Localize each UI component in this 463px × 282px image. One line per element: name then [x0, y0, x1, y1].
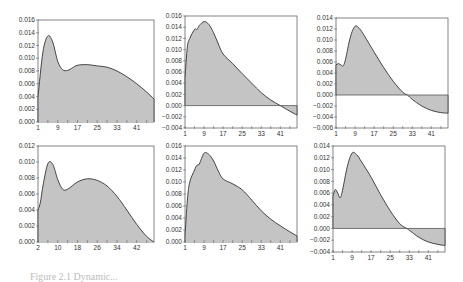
x-tick-label: 25 — [94, 124, 102, 131]
y-tick-label: −0.004 — [162, 124, 182, 131]
y-tick-label: 0.004 — [19, 206, 36, 213]
y-tick-label: 0.006 — [19, 80, 36, 87]
y-tick-label: 0.016 — [166, 12, 183, 19]
y-tick-label: 0.016 — [166, 142, 183, 149]
y-tick-label: 0.000 — [166, 238, 183, 245]
y-tick-label: 0.010 — [317, 36, 334, 43]
chart-bottom-left: 0.0120.0100.0080.0060.0040.0020.00021018… — [19, 142, 154, 251]
y-tick-label: 0.008 — [314, 178, 331, 185]
x-tick-label: 10 — [54, 244, 62, 251]
x-tick-label: 1 — [36, 124, 40, 131]
x-tick-label: 9 — [202, 244, 206, 251]
x-tick-label: 1 — [183, 244, 187, 251]
y-tick-label: 0.008 — [166, 57, 183, 64]
y-tick-label: −0.002 — [313, 102, 333, 109]
y-tick-label: 0.004 — [19, 93, 36, 100]
y-tick-label: 0.006 — [317, 58, 334, 65]
y-tick-label: 0.010 — [19, 54, 36, 61]
y-tick-label: 0.002 — [19, 105, 36, 112]
x-tick-label: 25 — [390, 130, 398, 137]
y-tick-label: −0.006 — [313, 124, 333, 131]
x-tick-label: 42 — [133, 244, 141, 251]
x-tick-label: 17 — [220, 130, 228, 137]
x-tick-label: 17 — [371, 130, 379, 137]
y-tick-label: 0.006 — [166, 68, 183, 75]
y-tick-label: 0.002 — [317, 80, 334, 87]
y-tick-label: 0.010 — [19, 158, 36, 165]
y-tick-label: 0.014 — [317, 14, 334, 21]
chart-bottom-right: 0.0140.0120.0100.0080.0060.0040.0020.000… — [310, 142, 445, 261]
chart-top-left: 0.0160.0140.0120.0100.0080.0060.0040.002… — [19, 16, 154, 131]
x-tick-label: 2 — [36, 244, 40, 251]
x-tick-label: 41 — [277, 244, 285, 251]
y-tick-label: 0.000 — [19, 238, 36, 245]
x-tick-label: 41 — [133, 124, 141, 131]
x-tick-label: 41 — [277, 130, 285, 137]
x-tick-label: 17 — [74, 124, 82, 131]
y-tick-label: 0.014 — [166, 154, 183, 161]
x-tick-label: 34 — [113, 244, 121, 251]
x-tick-label: 33 — [258, 244, 266, 251]
x-tick-label: 9 — [56, 124, 60, 131]
x-tick-label: 33 — [406, 254, 414, 261]
x-tick-label: 33 — [258, 130, 266, 137]
y-tick-label: −0.002 — [162, 113, 182, 120]
y-tick-label: 0.008 — [19, 67, 36, 74]
y-tick-label: 0.010 — [166, 46, 183, 53]
y-tick-label: 0.008 — [317, 47, 334, 54]
x-tick-label: 17 — [220, 244, 228, 251]
x-tick-label: 25 — [387, 254, 395, 261]
x-tick-label: 41 — [425, 254, 433, 261]
y-tick-label: 0.004 — [166, 214, 183, 221]
x-tick-label: 1 — [183, 130, 187, 137]
y-tick-label: 0.012 — [19, 142, 36, 149]
y-tick-label: 0.002 — [314, 213, 331, 220]
y-tick-label: 0.012 — [314, 154, 331, 161]
y-tick-label: 0.006 — [19, 190, 36, 197]
x-tick-label: 25 — [239, 244, 247, 251]
y-tick-label: 0.012 — [166, 166, 183, 173]
y-tick-label: 0.002 — [166, 226, 183, 233]
y-tick-label: 0.002 — [19, 222, 36, 229]
chart-top-right: 0.0140.0120.0100.0080.0060.0040.0020.000… — [313, 14, 448, 137]
y-tick-label: 0.006 — [166, 202, 183, 209]
y-tick-label: −0.004 — [313, 113, 333, 120]
y-tick-label: 0.000 — [317, 91, 334, 98]
y-tick-label: 0.006 — [314, 189, 331, 196]
y-tick-label: −0.002 — [310, 236, 330, 243]
chart-bottom-middle: 0.0160.0140.0120.0100.0080.0060.0040.002… — [166, 142, 297, 251]
x-tick-label: 33 — [409, 130, 417, 137]
chart-top-middle: 0.0160.0140.0120.0100.0080.0060.0040.002… — [162, 12, 297, 137]
y-tick-label: 0.000 — [166, 102, 183, 109]
x-tick-label: 9 — [353, 130, 357, 137]
y-tick-label: 0.010 — [166, 178, 183, 185]
y-tick-label: 0.004 — [317, 69, 334, 76]
y-tick-label: 0.012 — [19, 42, 36, 49]
y-tick-label: 0.008 — [19, 174, 36, 181]
y-tick-label: 0.000 — [314, 225, 331, 232]
x-tick-label: 9 — [202, 130, 206, 137]
y-tick-label: 0.000 — [19, 118, 36, 125]
figure-caption: Figure 2.1 Dynamic... — [30, 271, 118, 282]
x-tick-label: 41 — [428, 130, 436, 137]
x-tick-label: 1 — [334, 130, 338, 137]
y-tick-label: 0.004 — [166, 79, 183, 86]
y-tick-label: −0.004 — [310, 248, 330, 255]
x-tick-label: 33 — [113, 124, 121, 131]
x-tick-label: 17 — [368, 254, 376, 261]
x-tick-label: 25 — [239, 130, 247, 137]
y-tick-label: 0.014 — [166, 23, 183, 30]
x-tick-label: 1 — [331, 254, 335, 261]
x-tick-label: 18 — [74, 244, 82, 251]
y-tick-label: 0.012 — [317, 25, 334, 32]
y-tick-label: 0.004 — [314, 201, 331, 208]
x-tick-label: 9 — [350, 254, 354, 261]
x-tick-label: 26 — [94, 244, 102, 251]
y-tick-label: 0.002 — [166, 91, 183, 98]
y-tick-label: 0.012 — [166, 35, 183, 42]
y-tick-label: 0.010 — [314, 166, 331, 173]
y-tick-label: 0.008 — [166, 190, 183, 197]
y-tick-label: 0.014 — [314, 142, 331, 149]
y-tick-label: 0.014 — [19, 29, 36, 36]
